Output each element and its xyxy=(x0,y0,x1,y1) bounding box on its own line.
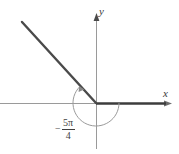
angle-label-minus-sign: − xyxy=(55,124,61,135)
y-axis-label: y xyxy=(99,6,104,17)
terminal-side-ray xyxy=(22,22,96,103)
angle-measure-label: − 5π 4 xyxy=(55,118,75,141)
coordinate-plane-svg xyxy=(0,0,179,154)
angle-label-fraction: 5π 4 xyxy=(62,118,75,141)
angle-diagram-figure: x y − 5π 4 xyxy=(0,0,179,154)
x-axis-label: x xyxy=(163,88,168,99)
angle-label-numerator: 5π xyxy=(62,118,74,129)
angle-label-denominator: 4 xyxy=(65,130,72,141)
